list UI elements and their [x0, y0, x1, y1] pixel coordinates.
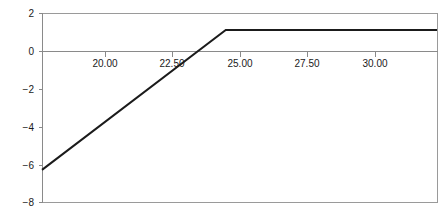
- line-chart: 2 0 −2 −4 −6 −8 20.00 22.50 25.00 27.50 …: [0, 0, 447, 218]
- y-axis-ticks: [39, 14, 43, 203]
- x-axis-ticks: [106, 52, 376, 57]
- x-tick-label-2750: 27.50: [294, 58, 319, 69]
- plot-frame: [43, 14, 438, 203]
- y-tick-label-minus2: −2: [23, 84, 35, 95]
- y-tick-label-minus8: −8: [23, 197, 35, 208]
- x-axis-labels: 20.00 22.50 25.00 27.50 30.00: [92, 58, 387, 69]
- y-tick-label-minus6: −6: [23, 160, 35, 171]
- x-tick-label-30: 30.00: [362, 58, 387, 69]
- y-axis-labels: 2 0 −2 −4 −6 −8: [23, 8, 35, 208]
- y-tick-label-2: 2: [28, 8, 34, 19]
- series-line-payoff: [42, 30, 437, 170]
- chart-container: 2 0 −2 −4 −6 −8 20.00 22.50 25.00 27.50 …: [0, 0, 447, 218]
- x-tick-label-25: 25.00: [227, 58, 252, 69]
- y-tick-label-0: 0: [28, 46, 34, 57]
- y-tick-label-minus4: −4: [23, 122, 35, 133]
- x-tick-label-20: 20.00: [92, 58, 117, 69]
- series-group: [42, 30, 437, 170]
